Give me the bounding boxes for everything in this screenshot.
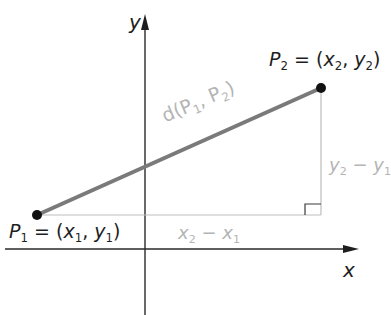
p1-comma: , [82,220,94,242]
p1-x: x [63,220,74,242]
vleg-a-sub: 2 [340,165,347,178]
vleg-b: y [373,154,384,175]
vertical-leg-label: y2 − y1 [329,156,391,177]
x-axis-arrow-icon [343,245,359,253]
point-p1 [32,210,42,220]
x-axis-label-text: x [343,258,355,282]
p2-close: ) [373,48,380,70]
y-axis-arrow-icon [141,14,149,30]
p2-comma: , [342,48,354,70]
p2-x: x [323,48,334,70]
point-p2 [316,83,326,93]
y-axis-label-text: y [129,10,141,34]
p2-name: P [269,48,280,70]
p2-sub: 2 [280,59,288,73]
p1-eq: = ( [28,220,63,242]
hleg-b-sub: 1 [233,233,240,246]
horizontal-leg-label: x2 − x1 [178,224,240,245]
y-axis-label: y [129,12,141,32]
p2-y-sub: 2 [365,59,373,73]
p1-name: P [9,220,20,242]
p1-close: ) [113,220,120,242]
p1-label: P1 = (x1, y1) [9,222,120,245]
p2-label: P2 = (x2, y2) [269,50,380,73]
hleg-b: x [222,222,233,243]
vleg-op: − [347,154,374,175]
p2-eq: = ( [288,48,323,70]
hleg-a-sub: 2 [189,233,196,246]
x-axis-label: x [343,260,355,280]
vleg-b-sub: 1 [384,165,391,178]
p1-y-sub: 1 [105,231,113,245]
hleg-a: x [178,222,189,243]
p1-y: y [94,220,105,242]
p1-sub: 1 [20,231,28,245]
hleg-op: − [196,222,223,243]
p2-y: y [354,48,365,70]
right-angle-marker [305,204,321,215]
vleg-a: y [329,154,340,175]
